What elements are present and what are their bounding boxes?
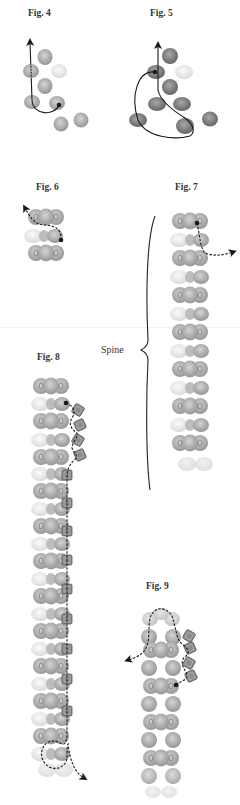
fig7-diagram bbox=[141, 213, 233, 491]
beading-diagrams bbox=[0, 0, 240, 805]
fig4-label: Fig. 4 bbox=[28, 8, 51, 18]
fig5-diagram bbox=[129, 45, 218, 138]
fig8-diagram bbox=[31, 378, 87, 779]
fig6-label: Fig. 6 bbox=[36, 182, 59, 192]
spine-annotation: Spine bbox=[101, 344, 124, 355]
fig9-label: Fig. 9 bbox=[146, 581, 169, 591]
fig8-label: Fig. 8 bbox=[37, 352, 60, 362]
fig4-diagram bbox=[23, 42, 89, 132]
fig7-label: Fig. 7 bbox=[175, 182, 198, 192]
fig9-diagram bbox=[128, 608, 198, 798]
fig6-diagram bbox=[24, 208, 64, 262]
fig5-label: Fig. 5 bbox=[150, 8, 173, 18]
